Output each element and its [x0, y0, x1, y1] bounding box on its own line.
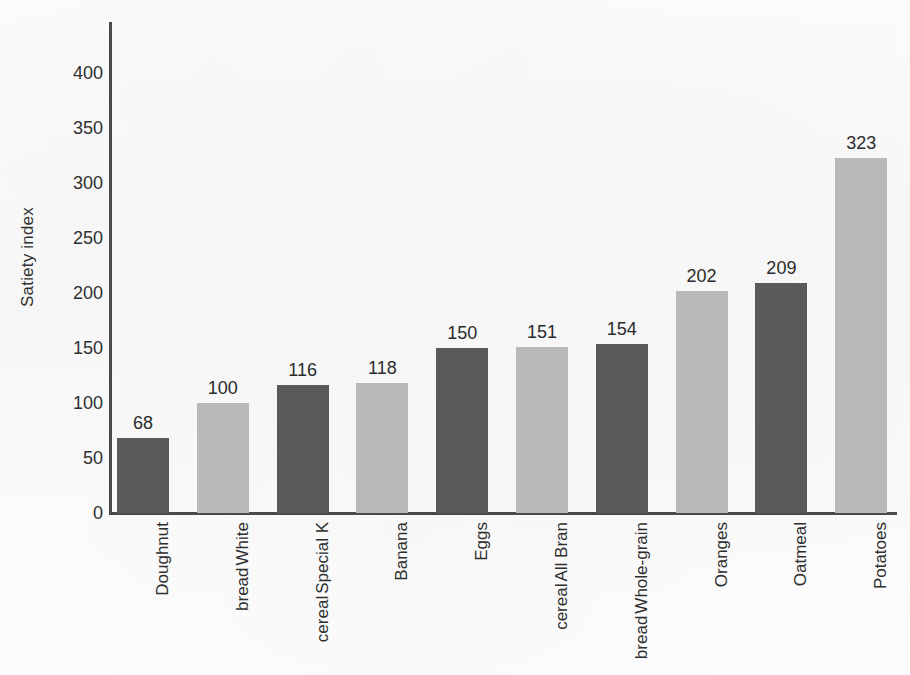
y-tick-label: 0 — [3, 503, 103, 524]
bar-value-label: 209 — [766, 258, 796, 279]
x-category-label-text: Oatmeal — [791, 522, 811, 586]
bar-rect — [277, 385, 329, 513]
x-category-label: Special Kcereal — [277, 516, 329, 666]
x-category-label-text: Banana — [392, 522, 412, 581]
bar-value-label: 202 — [687, 266, 717, 287]
x-category-label-text: Whole-grainbread — [632, 522, 652, 659]
x-category-label: Eggs — [436, 516, 488, 666]
x-category-label-line: Oatmeal — [791, 522, 811, 586]
x-category-label: Potatoes — [835, 516, 887, 666]
x-category-label-line: Banana — [392, 522, 412, 581]
bar-rect — [596, 344, 648, 513]
x-category-label-line: Eggs — [472, 522, 492, 561]
y-tick-label: 100 — [3, 393, 103, 414]
x-category-label: Oatmeal — [755, 516, 807, 666]
x-category-label-text: Potatoes — [871, 522, 891, 589]
bar-value-label: 151 — [527, 322, 557, 343]
bar[interactable]: 100 — [197, 22, 249, 513]
y-tick-label: 250 — [3, 228, 103, 249]
y-tick-label: 200 — [3, 283, 103, 304]
x-category-label-text: All Brancereal — [552, 522, 572, 630]
bar-rect — [676, 291, 728, 513]
x-category-label-line: bread — [632, 616, 652, 659]
y-tick-label: 300 — [3, 173, 103, 194]
bar-value-label: 323 — [846, 133, 876, 154]
x-category-label-line: Whole-grain — [632, 522, 652, 614]
x-category-label-line: Potatoes — [871, 522, 891, 589]
bar[interactable]: 68 — [117, 22, 169, 513]
bar-value-label: 154 — [607, 319, 637, 340]
y-axis-tick-labels: 050100150200250300350400 — [0, 0, 103, 675]
x-category-label: Banana — [356, 516, 408, 666]
x-category-label: Oranges — [676, 516, 728, 666]
bar-rect — [117, 438, 169, 513]
bar-series: 68100116118150151154202209323 — [111, 22, 895, 513]
x-category-label-line: bread — [233, 567, 253, 610]
x-category-label-line: All Bran — [552, 522, 572, 582]
bar[interactable]: 151 — [516, 22, 568, 513]
bar[interactable]: 209 — [755, 22, 807, 513]
y-tick-label: 400 — [3, 63, 103, 84]
x-category-label-line: cereal — [313, 596, 333, 642]
bar[interactable]: 154 — [596, 22, 648, 513]
bar-value-label: 68 — [133, 413, 153, 434]
bar[interactable]: 323 — [835, 22, 887, 513]
x-category-label-text: Special Kcereal — [313, 522, 333, 642]
bar-rect — [835, 158, 887, 513]
x-category-label: Whitebread — [197, 516, 249, 666]
x-category-label-line: Special K — [313, 522, 333, 594]
bar[interactable]: 202 — [676, 22, 728, 513]
bar[interactable]: 116 — [277, 22, 329, 513]
y-tick-label: 150 — [3, 338, 103, 359]
bar-rect — [197, 403, 249, 513]
x-category-label-text: Oranges — [712, 522, 732, 587]
x-category-label-line: White — [233, 522, 253, 565]
x-category-label-text: Eggs — [472, 522, 492, 561]
x-category-label: Whole-grainbread — [596, 516, 648, 666]
x-category-label-text: Doughnut — [153, 522, 173, 596]
bar[interactable]: 118 — [356, 22, 408, 513]
bar-rect — [356, 383, 408, 513]
bar[interactable]: 150 — [436, 22, 488, 513]
chart-page: Satiety index 050100150200250300350400 6… — [0, 0, 910, 675]
bar-rect — [755, 283, 807, 513]
y-tick-label: 50 — [3, 448, 103, 469]
x-axis-category-labels: DoughnutWhitebreadSpecial KcerealBananaE… — [111, 516, 895, 666]
x-category-label-text: Whitebread — [233, 522, 253, 611]
x-category-label-line: Oranges — [712, 522, 732, 587]
x-category-label: All Brancereal — [516, 516, 568, 666]
x-category-label-line: Doughnut — [153, 522, 173, 596]
bar-value-label: 100 — [208, 378, 238, 399]
bar-value-label: 118 — [368, 358, 397, 379]
bar-value-label: 116 — [288, 360, 317, 381]
bar-value-label: 150 — [447, 323, 477, 344]
bar-rect — [436, 348, 488, 513]
x-category-label-line: cereal — [552, 584, 572, 630]
x-category-label: Doughnut — [117, 516, 169, 666]
y-tick-label: 350 — [3, 118, 103, 139]
bar-rect — [516, 347, 568, 513]
